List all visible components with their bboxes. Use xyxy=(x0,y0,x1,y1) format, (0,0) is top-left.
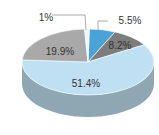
slice-label: 5.5% xyxy=(119,15,142,26)
slice-label: 51.4% xyxy=(72,78,100,89)
pie-chart: 5.5%8.2%51.4%19.9%1% xyxy=(0,0,159,135)
slice-label: 1% xyxy=(39,12,54,23)
slice-label: 19.9% xyxy=(46,46,74,57)
leader-line xyxy=(52,15,86,30)
slice-label: 8.2% xyxy=(109,40,132,51)
